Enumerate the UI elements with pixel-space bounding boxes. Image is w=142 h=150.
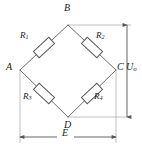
resistor-label-r4-subscript: 4 (100, 95, 103, 101)
resistor-label-r3-subscript: 3 (29, 95, 32, 101)
resistor-body-r1 (33, 37, 54, 57)
resistor-label-r2-subscript: 2 (102, 34, 105, 40)
resistor-bodies (33, 37, 102, 103)
resistor-label-r3: R3 (23, 92, 32, 101)
dimension-label-e-name: E (62, 127, 68, 138)
wheatstone-bridge-figure: A B C D R1 R2 R3 R4 Uo E (0, 0, 142, 150)
resistor-label-r4: R4 (94, 92, 103, 101)
extension-lines (20, 25, 131, 143)
resistor-body-r3 (33, 83, 54, 103)
node-label-c: C (117, 62, 124, 72)
dimension-label-uo-subscript: o (133, 65, 136, 72)
resistor-label-r1-subscript: 1 (26, 34, 29, 40)
resistor-label-r1: R1 (20, 31, 29, 40)
resistor-label-r2: R2 (96, 31, 105, 40)
dimension-label-uo: Uo (126, 62, 137, 73)
node-label-b: B (64, 3, 70, 13)
dimension-label-e: E (62, 128, 68, 138)
node-label-a: A (6, 62, 12, 72)
